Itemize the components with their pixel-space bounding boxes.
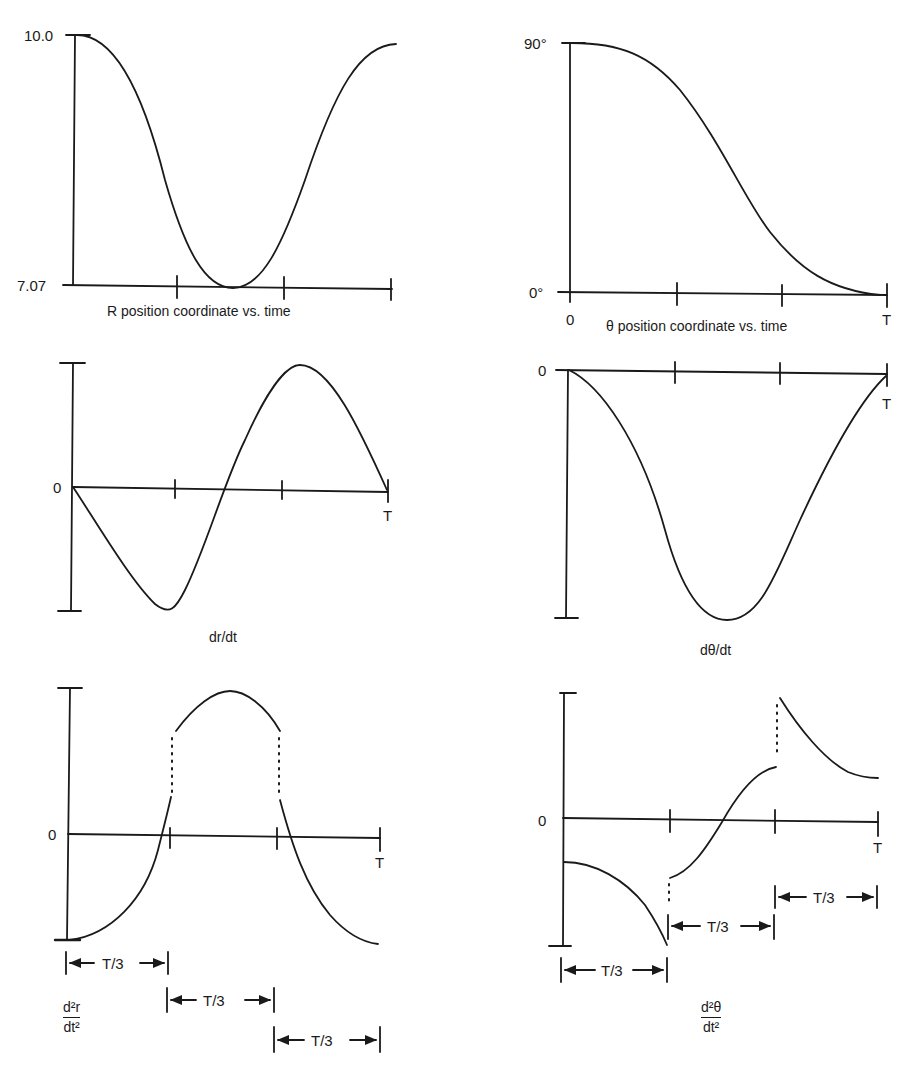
x-axis — [558, 292, 887, 295]
d2r-caption-numerator: d²r — [63, 1000, 80, 1018]
d2theta-dt2-caption: d²θ dt² — [701, 1000, 721, 1034]
d2r-seg-1 — [70, 797, 171, 940]
theta-y-max-label: 90° — [524, 36, 547, 51]
d2r-interval-3-label: T/3 — [309, 1033, 335, 1048]
d2theta-interval-2-label: T/3 — [705, 919, 731, 934]
d2r-zero-label: 0 — [48, 827, 56, 842]
dr-dt-zero-label: 0 — [53, 480, 61, 495]
d2theta-caption-numerator: d²θ — [701, 1000, 721, 1018]
dr-dt-caption: dr/dt — [209, 630, 237, 644]
theta-position-caption: θ position coordinate vs. time — [606, 319, 787, 333]
r-y-min-label: 7.07 — [17, 278, 46, 293]
figure-canvas — [0, 0, 920, 1078]
x-axis — [563, 818, 878, 822]
d2r-seg-2 — [176, 691, 280, 731]
theta-y-min-label: 0° — [529, 285, 543, 300]
theta-curve — [572, 43, 880, 295]
r-y-max-label: 10.0 — [24, 28, 53, 43]
d2r-interval-2-label: T/3 — [201, 993, 227, 1008]
dtheta-dt-zero-label: 0 — [538, 363, 546, 378]
d2r-x-end-label: T — [375, 855, 384, 870]
d2theta-seg-1 — [564, 862, 667, 945]
dtheta-dt-plot — [555, 362, 887, 620]
y-axis — [566, 370, 568, 618]
d2theta-seg-2 — [670, 767, 776, 878]
dtheta-dt-x-end-label: T — [882, 396, 891, 411]
dr-dt-x-end-label: T — [383, 508, 392, 523]
d2theta-interval-1-label: T/3 — [599, 963, 625, 978]
y-axis — [563, 693, 564, 946]
d2theta-x-end-label: T — [873, 840, 882, 855]
d2r-dt2-caption: d²r dt² — [63, 1000, 80, 1034]
r-position-plot — [63, 35, 396, 300]
theta-position-plot — [558, 43, 887, 307]
y-axis — [67, 688, 70, 940]
x-axis — [68, 834, 380, 838]
dtheta-dt-caption: dθ/dt — [700, 643, 731, 657]
x-axis — [73, 487, 388, 492]
d2theta-zero-label: 0 — [538, 813, 546, 828]
dr-dt-plot — [58, 363, 388, 611]
d2theta-caption-denominator: dt² — [701, 1018, 721, 1035]
d2theta-interval-3-label: T/3 — [811, 890, 837, 905]
theta-x-end-label: T — [882, 312, 891, 327]
d2r-seg-3 — [280, 800, 378, 944]
r-curve — [77, 35, 396, 288]
dtheta-dt-curve — [569, 370, 886, 620]
d2theta-dt2-plot — [549, 693, 878, 982]
y-axis — [73, 35, 75, 285]
d2r-caption-denominator: dt² — [63, 1018, 80, 1035]
theta-x-start-label: 0 — [566, 312, 574, 327]
x-axis — [556, 370, 887, 374]
d2theta-seg-3 — [780, 698, 878, 778]
d2r-interval-1-label: T/3 — [100, 956, 126, 971]
r-position-caption: R position coordinate vs. time — [107, 304, 291, 318]
